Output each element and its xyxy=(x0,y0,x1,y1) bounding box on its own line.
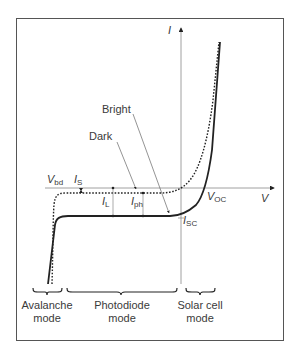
dark-leader xyxy=(117,142,136,189)
solarcell-mode-label: Solar cellmode xyxy=(172,299,228,325)
il-label: IL xyxy=(102,196,110,209)
is-label: IS xyxy=(74,174,82,187)
voc-label: VOC xyxy=(207,191,226,204)
photodiode-mode-label: Photodiodemode xyxy=(86,299,158,325)
bright-label: Bright xyxy=(102,104,131,115)
vbd-label: Vbd xyxy=(47,174,63,187)
avalanche-mode-label: Avalanchemode xyxy=(18,299,76,325)
dark-curve xyxy=(52,42,219,284)
photodiode-brace xyxy=(67,288,177,295)
iph-label: Iph xyxy=(131,196,143,209)
solarcell-brace xyxy=(186,288,215,295)
avalanche-brace xyxy=(33,288,62,295)
dark-label: Dark xyxy=(89,131,112,142)
il-marker xyxy=(112,187,115,218)
v-axis-label: V xyxy=(261,193,268,204)
i-axis-label: I xyxy=(168,25,171,36)
bright-curve xyxy=(48,42,220,284)
isc-label: ISC xyxy=(183,215,197,228)
is-marker xyxy=(79,188,83,193)
